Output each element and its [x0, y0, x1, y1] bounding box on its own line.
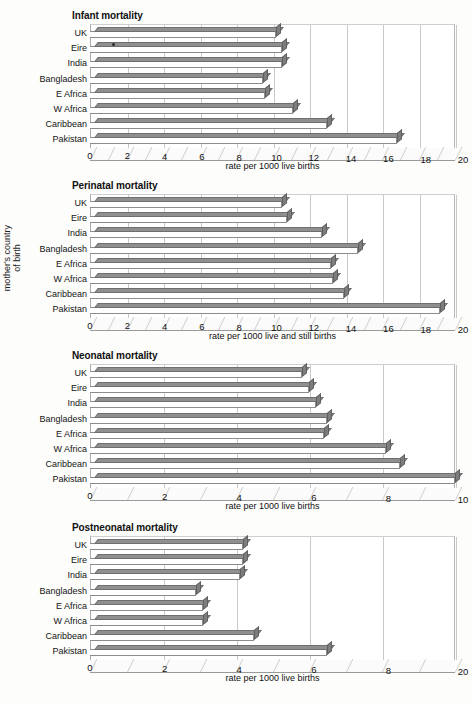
bar-end-cap [397, 129, 402, 143]
bar[interactable] [90, 413, 327, 424]
bar-end-cap [203, 596, 208, 610]
category-label: India [10, 568, 90, 583]
bar[interactable] [90, 367, 302, 378]
bar[interactable] [90, 443, 386, 454]
bar-top-face [94, 288, 352, 293]
x-tick-label: 20 [458, 666, 469, 677]
bar[interactable] [90, 88, 265, 99]
bar-top-face [94, 103, 300, 108]
bar[interactable] [90, 539, 243, 550]
bar-top-face [94, 303, 448, 308]
bar-end-cap [322, 223, 327, 237]
bar[interactable] [90, 569, 240, 580]
bar-end-cap [282, 193, 287, 207]
plot-area [90, 194, 455, 318]
bar[interactable] [90, 303, 440, 314]
bar-front-face [90, 201, 282, 208]
bar-top-face [94, 458, 408, 463]
chart-panel: Postneonatal mortalityUKEireIndiaBanglad… [0, 512, 473, 684]
category-label: Bangladesh [10, 412, 90, 427]
bar-front-face [90, 401, 316, 408]
category-label: Bangladesh [10, 584, 90, 599]
bar-row [90, 132, 455, 147]
bar-end-cap [243, 550, 248, 564]
gridline [456, 195, 457, 318]
bar-row [90, 72, 455, 87]
bar[interactable] [90, 554, 243, 565]
category-label: Caribbean [10, 457, 90, 472]
chart-title: Infant mortality [72, 10, 143, 21]
bar[interactable] [90, 382, 309, 393]
chart-title: Postneonatal mortality [72, 522, 178, 533]
bar-top-face [94, 428, 332, 433]
bar[interactable] [90, 57, 282, 68]
bar-top-face [94, 88, 273, 93]
bar[interactable] [90, 227, 322, 238]
category-label: W Africa [10, 442, 90, 457]
bar[interactable] [90, 288, 344, 299]
bar-end-cap [455, 469, 460, 483]
category-label: E Africa [10, 87, 90, 102]
bar-rows [90, 538, 455, 660]
bar-row [90, 629, 455, 644]
bar-top-face [94, 42, 290, 47]
category-label: UK [10, 196, 90, 211]
bar-row [90, 396, 455, 411]
bar[interactable] [90, 458, 400, 469]
bar[interactable] [90, 212, 287, 223]
category-label: Caribbean [10, 117, 90, 132]
bar[interactable] [90, 27, 276, 38]
bar-row [90, 26, 455, 41]
category-label: India [10, 226, 90, 241]
bar[interactable] [90, 133, 397, 144]
bar-row [90, 568, 455, 583]
bar[interactable] [90, 243, 358, 254]
bar-row [90, 584, 455, 599]
bar[interactable] [90, 473, 455, 484]
bar-row [90, 412, 455, 427]
bar-row [90, 427, 455, 442]
bar-front-face [90, 122, 327, 129]
bar-rows [90, 196, 455, 318]
bar[interactable] [90, 585, 196, 596]
bar-end-cap [265, 84, 270, 98]
bar-top-face [94, 397, 324, 402]
bar[interactable] [90, 103, 293, 114]
bar-row [90, 41, 455, 56]
bar[interactable] [90, 428, 324, 439]
bar[interactable] [90, 273, 333, 284]
bar-top-face [94, 57, 290, 62]
bar-row [90, 366, 455, 381]
category-axis-labels: UKEireIndiaBangladeshE AfricaW AfricaCar… [10, 366, 90, 488]
bar-end-cap [316, 393, 321, 407]
chart-title: Perinatal mortality [72, 180, 157, 191]
category-label: India [10, 56, 90, 71]
bar[interactable] [90, 397, 316, 408]
bar-top-face [94, 382, 317, 387]
bar[interactable] [90, 630, 254, 641]
chart-title: Neonatal mortality [72, 350, 157, 361]
bar-top-face [94, 73, 271, 78]
gridline [456, 537, 457, 660]
bar[interactable] [90, 42, 282, 53]
bar-row [90, 381, 455, 396]
gridline [456, 25, 457, 148]
x-axis-title: rate per 1000 live births [90, 673, 455, 683]
bar-row [90, 226, 455, 241]
bar[interactable] [90, 118, 327, 129]
bar-top-face [94, 443, 394, 448]
bar-front-face [90, 61, 282, 68]
category-label: UK [10, 538, 90, 553]
bar[interactable] [90, 645, 327, 656]
bar[interactable] [90, 197, 282, 208]
bar[interactable] [90, 258, 331, 269]
bar-end-cap [331, 254, 336, 268]
bar-end-cap [327, 114, 332, 128]
bar[interactable] [90, 600, 203, 611]
category-label: E Africa [10, 427, 90, 442]
chart-page: mother's country of birth Infant mortali… [0, 0, 473, 704]
bar[interactable] [90, 73, 263, 84]
bar[interactable] [90, 615, 203, 626]
category-label: Eire [10, 211, 90, 226]
bar-end-cap [386, 439, 391, 453]
